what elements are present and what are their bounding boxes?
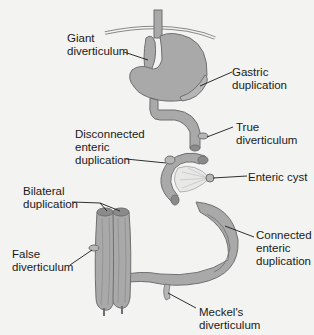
duodenum-cut-end — [190, 145, 200, 151]
meckels-diverticulum-shape — [164, 284, 170, 300]
gi-duplication-diagram — [0, 0, 314, 335]
label-meckels-diverticulum: Meckel's diverticulum — [199, 306, 260, 332]
false-diverticulum-shape — [89, 245, 99, 251]
esophagus — [154, 10, 162, 38]
label-false-diverticulum: False diverticulum — [12, 248, 73, 274]
enteric-cyst-shape — [206, 174, 214, 182]
true-diverticulum-shape — [198, 133, 208, 139]
disconnected-segment — [161, 153, 214, 205]
label-bilateral-duplication: Bilateral duplication — [23, 185, 78, 211]
label-connected-enteric-duplication: Connected enteric duplication — [256, 229, 312, 268]
label-gastric-duplication: Gastric duplication — [232, 66, 287, 92]
label-disconnected-enteric-duplication: Disconnected enteric duplication — [75, 128, 145, 167]
small-bowel-loop — [118, 202, 238, 285]
label-enteric-cyst: Enteric cyst — [248, 171, 307, 184]
label-true-diverticulum: True diverticulum — [236, 121, 297, 147]
label-giant-diverticulum: Giant diverticulum — [67, 32, 128, 58]
bilateral-duplication-colon — [95, 208, 131, 316]
